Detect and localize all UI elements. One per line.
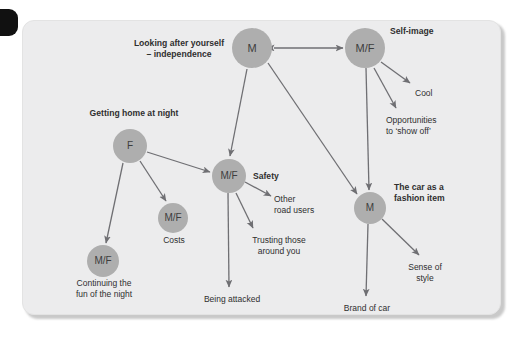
label-other-road-users: Other road users — [274, 194, 336, 216]
label-safety: Safety — [253, 171, 303, 182]
label-car-as-fashion-item: The car as a fashion item — [394, 182, 472, 204]
label-opportunities: Opportunities to ‘show off’ — [386, 115, 466, 137]
label-looking-after-yourself: Looking after yourself – independence — [120, 38, 238, 60]
label-cool: Cool — [415, 88, 465, 99]
diagram-canvas: MM/FFM/FM/FM/FM Looking after yourself –… — [0, 0, 520, 351]
page-edge-tab — [0, 9, 18, 36]
label-continuing-the-fun: Continuing the fun of the night — [62, 278, 146, 300]
label-trusting-those: Trusting those around you — [241, 235, 317, 257]
label-getting-home-at-night: Getting home at night — [74, 108, 194, 119]
label-brand-of-car: Brand of car — [332, 303, 402, 314]
label-being-attacked: Being attacked — [193, 294, 271, 305]
label-sense-of-style: Sense of style — [398, 262, 452, 284]
labels-layer: Looking after yourself – independenceSel… — [0, 0, 520, 351]
label-self-image: Self-image — [390, 26, 460, 37]
label-costs: Costs — [152, 235, 196, 246]
